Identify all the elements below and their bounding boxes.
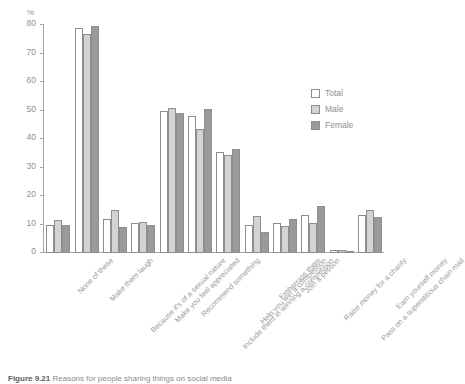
chart-legend: TotalMaleFemale bbox=[311, 86, 395, 134]
y-axis-tick-mark bbox=[40, 224, 43, 225]
bar-group bbox=[160, 24, 184, 253]
bar-female bbox=[176, 113, 184, 253]
y-axis-tick-mark bbox=[40, 138, 43, 139]
x-axis-label: Raise money for a charity bbox=[342, 256, 409, 323]
bar-total bbox=[301, 215, 309, 253]
bar-female bbox=[91, 26, 99, 253]
bar-group bbox=[330, 24, 354, 253]
y-axis-tick-label: 10 bbox=[2, 219, 36, 228]
bar-female bbox=[289, 219, 297, 253]
bar-group bbox=[245, 24, 269, 253]
bar-male bbox=[281, 226, 289, 253]
y-axis-tick-label: 60 bbox=[2, 76, 36, 85]
legend-item: Male bbox=[311, 102, 395, 116]
figure-caption-text: Reasons for people sharing things on soc… bbox=[52, 374, 231, 383]
y-axis-tick-mark bbox=[40, 167, 43, 168]
x-axis-labels: None of theseMake them laughBecause it's… bbox=[0, 252, 397, 382]
bar-total bbox=[75, 28, 83, 253]
bar-male bbox=[111, 210, 119, 253]
legend-label: Male bbox=[325, 104, 343, 114]
bar-female bbox=[119, 227, 127, 253]
bar-female bbox=[261, 232, 269, 253]
bar-group bbox=[131, 24, 155, 253]
bar-male bbox=[139, 222, 147, 253]
bar-group bbox=[46, 24, 70, 253]
bar-male bbox=[253, 216, 261, 253]
y-axis-tick-label: 70 bbox=[2, 48, 36, 57]
bar-total bbox=[131, 223, 139, 253]
y-axis-tick-mark bbox=[40, 81, 43, 82]
bar-group bbox=[103, 24, 127, 253]
bar-total bbox=[245, 225, 253, 254]
x-axis-label: Make them laugh bbox=[107, 256, 154, 303]
bar-group bbox=[216, 24, 240, 253]
bar-male bbox=[366, 210, 374, 253]
legend-label: Total bbox=[325, 88, 343, 98]
bar-total bbox=[216, 152, 224, 253]
bar-female bbox=[147, 225, 155, 254]
bar-male bbox=[224, 155, 232, 253]
bar-female bbox=[204, 109, 212, 253]
bar-group bbox=[188, 24, 212, 253]
y-axis-tick-label: 20 bbox=[2, 190, 36, 199]
bar-male bbox=[54, 220, 62, 253]
legend-label: Female bbox=[325, 120, 353, 130]
bar-female bbox=[374, 217, 382, 253]
bar-female bbox=[232, 149, 240, 253]
bar-group bbox=[273, 24, 297, 253]
y-axis-unit-label: % bbox=[27, 8, 34, 17]
figure-caption-number: Figure 9.21 bbox=[8, 374, 50, 383]
bar-male bbox=[196, 129, 204, 253]
bar-total bbox=[46, 225, 54, 254]
bar-group bbox=[358, 24, 382, 253]
y-axis-tick-mark bbox=[40, 110, 43, 111]
bar-group bbox=[75, 24, 99, 253]
bar-female bbox=[317, 206, 325, 253]
figure-caption: Figure 9.21 Reasons for people sharing t… bbox=[8, 374, 393, 384]
bar-total bbox=[103, 219, 111, 253]
bar-female bbox=[62, 225, 70, 254]
bar-male bbox=[168, 108, 176, 253]
legend-swatch-male bbox=[311, 105, 320, 114]
y-axis-tick-mark bbox=[40, 195, 43, 196]
bar-total bbox=[188, 116, 196, 253]
y-axis-tick-mark bbox=[40, 24, 43, 25]
legend-swatch-total bbox=[311, 89, 320, 98]
y-axis-tick-mark bbox=[40, 53, 43, 54]
bar-groups bbox=[44, 24, 384, 253]
legend-item: Total bbox=[311, 86, 395, 100]
y-axis-tick-label: 80 bbox=[2, 19, 36, 28]
bar-male bbox=[309, 223, 317, 253]
bar-male bbox=[83, 34, 91, 253]
y-axis-tick-label: 50 bbox=[2, 105, 36, 114]
x-axis-label: None of these bbox=[76, 256, 115, 295]
bar-total bbox=[160, 111, 168, 254]
bar-group bbox=[301, 24, 325, 253]
bar-total bbox=[358, 215, 366, 253]
bar-total bbox=[273, 223, 281, 253]
y-axis-tick-label: 30 bbox=[2, 162, 36, 171]
y-axis-tick-label: 40 bbox=[2, 133, 36, 142]
legend-item: Female bbox=[311, 118, 395, 132]
legend-swatch-female bbox=[311, 121, 320, 130]
